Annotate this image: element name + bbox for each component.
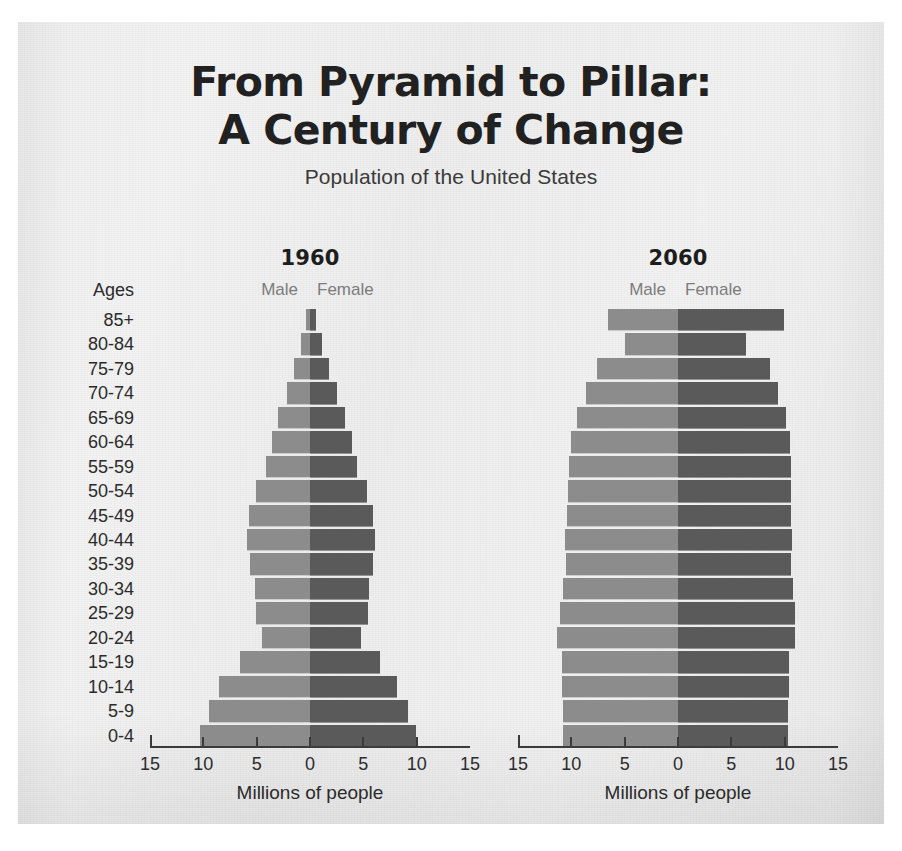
female-bar — [678, 505, 791, 527]
x-tick-label: 5 — [341, 754, 385, 775]
male-bar — [586, 382, 678, 404]
bar-row — [518, 528, 838, 552]
male-bar — [563, 725, 678, 747]
male-bar — [256, 602, 310, 624]
bar-row — [150, 406, 470, 430]
female-bar — [678, 382, 778, 404]
header: From Pyramid to Pillar: A Century of Cha… — [0, 58, 902, 189]
female-bar — [310, 627, 361, 649]
x-tick-label: 15 — [816, 754, 860, 775]
x-tick-label: 10 — [395, 754, 439, 775]
bar-row — [150, 308, 470, 332]
bar-row — [518, 381, 838, 405]
male-bar — [569, 456, 678, 478]
male-bar — [240, 651, 310, 673]
bar-rows-2060 — [518, 308, 838, 748]
male-bar — [294, 358, 310, 380]
bar-row — [150, 601, 470, 625]
male-bar — [219, 676, 310, 698]
x-tick-label: 5 — [235, 754, 279, 775]
x-axis-tick — [202, 737, 204, 746]
x-tick-label: 10 — [763, 754, 807, 775]
bar-row — [518, 552, 838, 576]
bar-row — [518, 479, 838, 503]
male-bar — [278, 407, 310, 429]
bar-row — [518, 332, 838, 356]
bar-row — [150, 650, 470, 674]
page-title-line-1: From Pyramid to Pillar: — [0, 58, 902, 106]
male-bar — [250, 553, 310, 575]
male-bar — [608, 309, 678, 331]
legend-male-1960: Male — [261, 280, 298, 300]
female-bar — [310, 358, 329, 380]
female-bar — [678, 309, 784, 331]
bar-row — [150, 626, 470, 650]
bar-row — [150, 455, 470, 479]
female-bar — [310, 651, 380, 673]
x-tick-label: 5 — [709, 754, 753, 775]
x-axis-tick — [416, 737, 418, 746]
male-bar — [563, 700, 678, 722]
female-bar — [678, 676, 789, 698]
bar-row — [150, 528, 470, 552]
x-axis-line-2060 — [518, 746, 838, 748]
male-bar — [249, 505, 310, 527]
male-bar — [566, 553, 678, 575]
bar-row — [518, 626, 838, 650]
page-subtitle: Population of the United States — [0, 165, 902, 189]
bar-row — [518, 430, 838, 454]
female-bar — [310, 480, 367, 502]
female-bar — [310, 407, 345, 429]
x-axis-title-2060: Millions of people — [518, 782, 838, 804]
bar-row — [518, 504, 838, 528]
male-bar — [562, 651, 678, 673]
female-bar — [678, 651, 789, 673]
male-bar — [597, 358, 678, 380]
male-bar — [247, 529, 310, 551]
male-bar — [255, 578, 310, 600]
x-axis-tick — [570, 737, 572, 746]
panel-year-label-1960: 1960 — [150, 246, 470, 270]
panel-1960: 1960 Male Female 15105051015 Millions of… — [150, 246, 470, 806]
x-axis-tick — [624, 737, 626, 746]
female-bar — [310, 700, 408, 722]
female-bar — [678, 578, 793, 600]
bar-row — [150, 675, 470, 699]
female-bar — [310, 456, 357, 478]
x-axis-tick — [309, 737, 311, 746]
x-tick-label: 0 — [288, 754, 332, 775]
x-axis-left-cap-2060 — [518, 735, 520, 748]
male-bar — [577, 407, 678, 429]
female-bar — [310, 382, 337, 404]
bar-row — [518, 601, 838, 625]
female-bar — [678, 553, 791, 575]
x-tick-labels-2060: 15105051015 — [496, 754, 860, 778]
bar-row — [150, 577, 470, 601]
bar-row — [518, 455, 838, 479]
male-bar — [568, 480, 678, 502]
plot-2060 — [518, 308, 838, 748]
x-axis-tick — [730, 737, 732, 746]
male-bar — [571, 431, 678, 453]
screenshot-root: From Pyramid to Pillar: A Century of Cha… — [0, 0, 902, 851]
panel-2060: 2060 Male Female 15105051015 Millions of… — [518, 246, 838, 806]
female-bar — [310, 602, 368, 624]
x-tick-label: 15 — [128, 754, 172, 775]
male-bar — [557, 627, 678, 649]
female-bar — [310, 505, 373, 527]
x-tick-label: 15 — [496, 754, 540, 775]
x-tick-label: 0 — [656, 754, 700, 775]
male-bar — [560, 602, 678, 624]
female-bar — [310, 309, 316, 331]
female-bar — [310, 431, 352, 453]
x-axis-tick — [677, 737, 679, 746]
female-bar — [678, 333, 746, 355]
female-bar — [678, 602, 795, 624]
panel-year-label-2060: 2060 — [518, 246, 838, 270]
male-bar — [567, 505, 678, 527]
female-bar — [678, 700, 788, 722]
x-axis-line-1960 — [150, 746, 470, 748]
x-tick-label: 15 — [448, 754, 492, 775]
male-bar — [209, 700, 310, 722]
bar-rows-1960 — [150, 308, 470, 748]
